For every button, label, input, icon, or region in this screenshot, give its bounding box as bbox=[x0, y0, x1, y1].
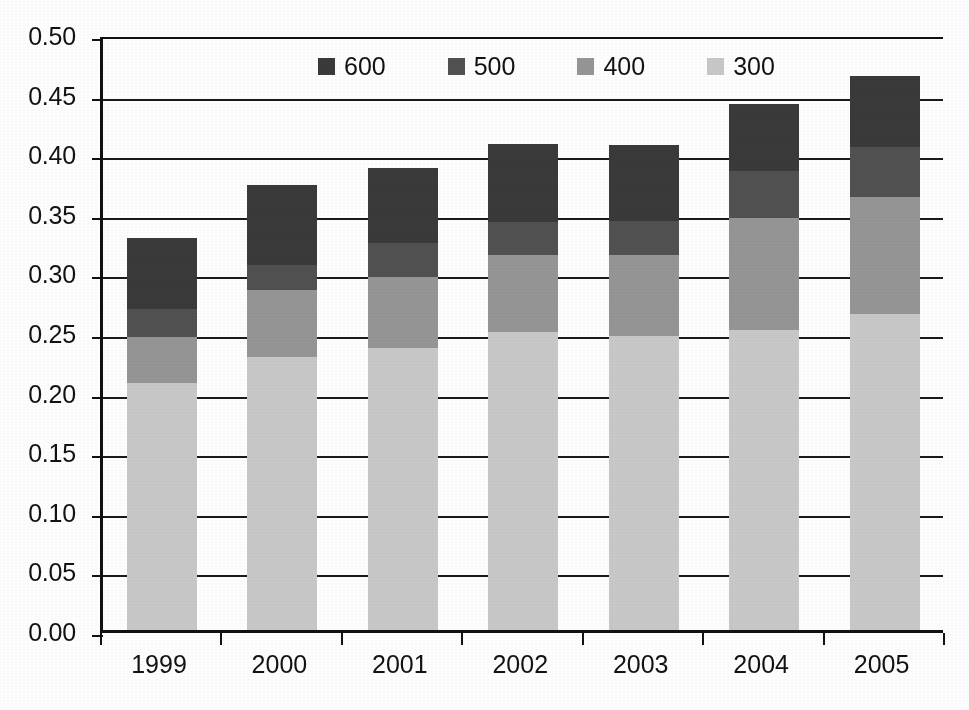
bar-segment-500[interactable] bbox=[488, 222, 558, 254]
y-axis-tick bbox=[92, 337, 103, 339]
bar-segment-600[interactable] bbox=[729, 104, 799, 171]
legend-label: 500 bbox=[474, 54, 516, 79]
x-axis-tick bbox=[100, 633, 102, 645]
x-axis-tick bbox=[582, 633, 584, 645]
x-axis-label: 1999 bbox=[99, 650, 219, 678]
bar-segment-600[interactable] bbox=[127, 238, 197, 310]
y-axis-tick bbox=[92, 99, 103, 101]
bar-group[interactable] bbox=[729, 104, 799, 630]
bar-group[interactable] bbox=[368, 168, 438, 630]
y-axis-tick bbox=[92, 397, 103, 399]
bar-segment-600[interactable] bbox=[488, 144, 558, 223]
stacked-bar-chart: 0.000.050.100.150.200.250.300.350.400.45… bbox=[0, 0, 969, 710]
legend-label: 400 bbox=[603, 54, 645, 79]
x-axis-tick bbox=[702, 633, 704, 645]
x-axis-tick bbox=[943, 633, 945, 645]
bar-segment-300[interactable] bbox=[609, 336, 679, 630]
legend-item-500[interactable]: 500 bbox=[448, 54, 516, 79]
bar-segment-500[interactable] bbox=[850, 147, 920, 197]
bar-segment-400[interactable] bbox=[247, 290, 317, 357]
bar-group[interactable] bbox=[609, 145, 679, 630]
y-axis-label: 0.20 bbox=[0, 382, 76, 407]
bar-segment-400[interactable] bbox=[850, 197, 920, 314]
bar-segment-300[interactable] bbox=[488, 332, 558, 630]
chart-legend: 600500400300 bbox=[318, 54, 775, 79]
x-axis-tick bbox=[461, 633, 463, 645]
y-axis-label: 0.35 bbox=[0, 203, 76, 228]
bar-group[interactable] bbox=[247, 185, 317, 630]
bar-group[interactable] bbox=[850, 76, 920, 630]
bar-segment-300[interactable] bbox=[127, 383, 197, 630]
y-axis-tick bbox=[92, 575, 103, 577]
y-axis-label: 0.05 bbox=[0, 560, 76, 585]
legend-item-300[interactable]: 300 bbox=[707, 54, 775, 79]
bars-layer bbox=[103, 39, 943, 630]
legend-swatch-icon bbox=[707, 58, 724, 75]
bar-segment-600[interactable] bbox=[247, 185, 317, 265]
y-axis-label: 0.25 bbox=[0, 322, 76, 347]
x-axis-tick bbox=[220, 633, 222, 645]
bar-segment-400[interactable] bbox=[729, 218, 799, 330]
legend-label: 300 bbox=[733, 54, 775, 79]
x-axis-label: 2005 bbox=[822, 650, 942, 678]
y-axis-label: 0.00 bbox=[0, 620, 76, 645]
bar-segment-300[interactable] bbox=[368, 348, 438, 631]
bar-segment-600[interactable] bbox=[368, 168, 438, 243]
y-axis-label: 0.40 bbox=[0, 143, 76, 168]
x-axis-tick bbox=[823, 633, 825, 645]
y-axis-label: 0.50 bbox=[0, 24, 76, 49]
bar-segment-500[interactable] bbox=[609, 221, 679, 254]
y-axis-label: 0.10 bbox=[0, 501, 76, 526]
y-axis-tick bbox=[92, 39, 103, 41]
y-axis-label: 0.30 bbox=[0, 262, 76, 287]
y-axis-tick bbox=[92, 456, 103, 458]
x-axis-label: 2003 bbox=[581, 650, 701, 678]
y-axis-tick bbox=[92, 218, 103, 220]
x-axis-label: 2001 bbox=[340, 650, 460, 678]
legend-item-400[interactable]: 400 bbox=[577, 54, 645, 79]
y-axis-label: 0.45 bbox=[0, 84, 76, 109]
bar-segment-400[interactable] bbox=[368, 277, 438, 347]
bar-segment-400[interactable] bbox=[609, 255, 679, 336]
y-axis-tick bbox=[92, 516, 103, 518]
bar-segment-300[interactable] bbox=[729, 330, 799, 630]
bar-segment-400[interactable] bbox=[488, 255, 558, 332]
bar-group[interactable] bbox=[488, 144, 558, 630]
y-axis-label: 0.15 bbox=[0, 441, 76, 466]
bar-segment-500[interactable] bbox=[368, 243, 438, 278]
plot-area bbox=[100, 37, 943, 633]
bar-segment-600[interactable] bbox=[609, 145, 679, 221]
bar-segment-600[interactable] bbox=[850, 76, 920, 148]
bar-segment-500[interactable] bbox=[247, 265, 317, 290]
x-axis-label: 2002 bbox=[460, 650, 580, 678]
y-axis-tick bbox=[92, 277, 103, 279]
bar-segment-300[interactable] bbox=[850, 314, 920, 630]
legend-item-600[interactable]: 600 bbox=[318, 54, 386, 79]
x-axis-label: 2004 bbox=[701, 650, 821, 678]
bar-segment-500[interactable] bbox=[729, 171, 799, 217]
x-axis-tick bbox=[341, 633, 343, 645]
legend-swatch-icon bbox=[318, 58, 335, 75]
legend-swatch-icon bbox=[577, 58, 594, 75]
bar-segment-300[interactable] bbox=[247, 357, 317, 630]
x-axis-label: 2000 bbox=[219, 650, 339, 678]
bar-group[interactable] bbox=[127, 238, 197, 630]
legend-swatch-icon bbox=[448, 58, 465, 75]
y-axis-tick bbox=[92, 158, 103, 160]
bar-segment-400[interactable] bbox=[127, 337, 197, 383]
legend-label: 600 bbox=[344, 54, 386, 79]
bar-segment-500[interactable] bbox=[127, 309, 197, 336]
